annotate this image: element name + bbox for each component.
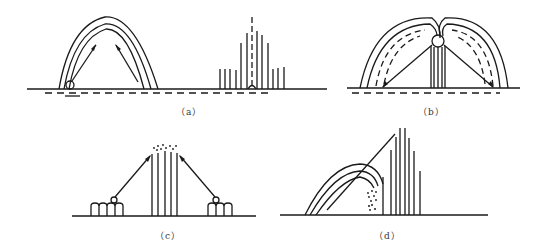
panel-d: [280, 128, 488, 215]
diagram-canvas: [0, 0, 538, 249]
caption-d: （d）: [374, 229, 401, 242]
caption-a: （a）: [176, 105, 202, 118]
panel-b: [347, 18, 520, 93]
caption-b: （b）: [418, 105, 445, 118]
panel-c: [72, 144, 256, 216]
caption-c: （c）: [155, 229, 181, 242]
panel-a: [27, 17, 327, 96]
